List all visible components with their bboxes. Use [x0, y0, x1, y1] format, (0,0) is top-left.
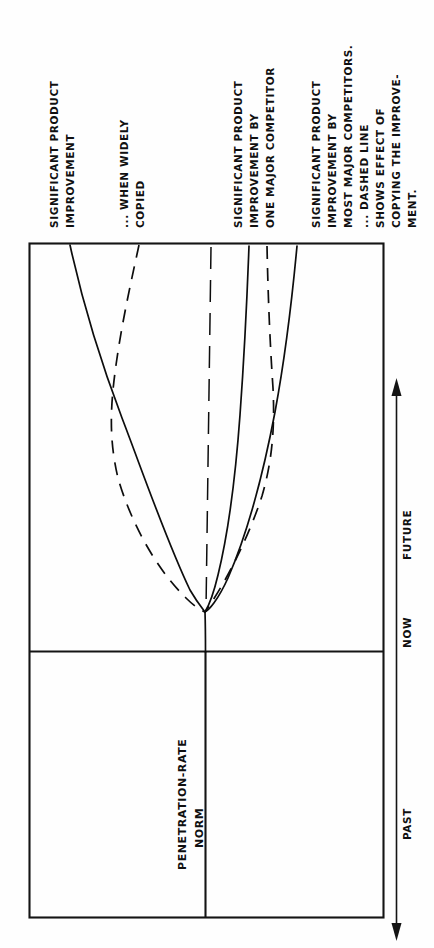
now-label-text: NOW — [401, 617, 413, 648]
figure-page: SIGNIFICANT PRODUCT IMPROVEMENT ... WHEN… — [0, 0, 434, 948]
curve-significant-product-improvement — [70, 245, 205, 612]
annotation-most-major-competitors: SIGNIFICANT PRODUCT IMPROVEMENT BY MOST … — [310, 45, 418, 228]
annot-line: SIGNIFICANT PRODUCT — [48, 80, 60, 228]
annot-line: SIGNIFICANT PRODUCT — [310, 80, 322, 228]
penetration-rate-norm-label: PENETRATION-RATE NORM — [176, 739, 206, 870]
annot-line: IMPROVEMENT — [64, 134, 76, 228]
future-arrow-head — [392, 378, 402, 396]
curve-convergence-tail — [205, 612, 206, 652]
past-arrow-head — [392, 923, 402, 941]
now-axis-label: NOW — [401, 617, 413, 648]
annot-line: IMPROVEMENT BY — [248, 113, 260, 228]
annot-line: MENT. — [406, 189, 418, 228]
past-axis-label: PAST — [401, 808, 413, 840]
future-label-text: FUTURE — [401, 510, 413, 560]
future-axis-label: FUTURE — [401, 510, 413, 560]
penetration-rate-chart: SIGNIFICANT PRODUCT IMPROVEMENT ... WHEN… — [0, 0, 434, 948]
annot-line: SIGNIFICANT PRODUCT — [232, 80, 244, 228]
past-label-text: PAST — [401, 808, 413, 840]
annot-line: SHOWS EFFECT OF — [374, 108, 386, 228]
annot-line: COPYING THE IMPROVE- — [390, 74, 402, 228]
annotation-when-widely-copied: ... WHEN WIDELY COPIED — [118, 119, 146, 228]
annot-line: COPIED — [134, 180, 146, 228]
curve-most-major-competitors — [205, 246, 297, 612]
annotation-one-major-competitor: SIGNIFICANT PRODUCT IMPROVEMENT BY ONE M… — [232, 67, 276, 228]
norm-label-line: NORM — [193, 808, 206, 848]
norm-line-future-dashed — [206, 247, 211, 610]
annot-line: MOST MAJOR COMPETITORS. — [342, 45, 354, 228]
annot-line: ... DASHED LINE — [358, 124, 370, 228]
annot-line: ONE MAJOR COMPETITOR — [264, 67, 276, 228]
annot-line: IMPROVEMENT BY — [326, 113, 338, 228]
norm-label-line: PENETRATION-RATE — [176, 739, 189, 870]
curve-one-major-competitor — [205, 246, 249, 612]
annot-line: ... WHEN WIDELY — [118, 119, 130, 228]
annotation-significant-product-improvement: SIGNIFICANT PRODUCT IMPROVEMENT — [48, 80, 76, 228]
